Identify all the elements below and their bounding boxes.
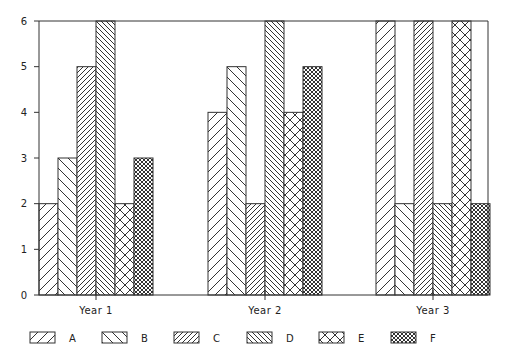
legend-item-c: C bbox=[174, 332, 220, 344]
legend-item-a: A bbox=[30, 332, 76, 344]
legend-swatch-f bbox=[391, 332, 416, 343]
bar-b-year-1 bbox=[58, 158, 77, 295]
bar-f-year-1 bbox=[134, 158, 153, 295]
y-tick-label: 6 bbox=[21, 16, 27, 27]
x-category-label: Year 1 bbox=[78, 305, 113, 316]
y-axis-ticks: 0123456 bbox=[21, 16, 39, 301]
x-category-label: Year 3 bbox=[415, 305, 450, 316]
legend-item-b: B bbox=[102, 332, 148, 344]
bar-d-year-1 bbox=[96, 21, 115, 295]
bar-c-year-1 bbox=[77, 67, 96, 295]
legend-label: D bbox=[286, 333, 294, 344]
x-category-label: Year 2 bbox=[247, 305, 282, 316]
legend-swatch-b bbox=[102, 332, 127, 343]
bar-a-year-1 bbox=[39, 204, 58, 295]
bar-b-year-2 bbox=[227, 67, 246, 295]
legend-swatch-d bbox=[247, 332, 272, 343]
y-tick-label: 2 bbox=[21, 198, 27, 209]
legend-swatch-e bbox=[319, 332, 344, 343]
bar-b-year-3 bbox=[395, 204, 414, 295]
legend-label: A bbox=[69, 333, 76, 344]
legend-swatch-c bbox=[174, 332, 199, 343]
y-tick-label: 1 bbox=[21, 244, 27, 255]
bar-e-year-1 bbox=[115, 204, 134, 295]
legend: ABCDEF bbox=[30, 332, 436, 344]
bar-chart: 0123456 Year 1Year 2Year 3 ABCDEF bbox=[0, 0, 509, 363]
bars-group bbox=[39, 21, 490, 295]
bar-c-year-2 bbox=[246, 204, 265, 295]
bar-f-year-2 bbox=[303, 67, 322, 295]
bar-a-year-3 bbox=[376, 21, 395, 295]
bar-e-year-2 bbox=[284, 112, 303, 295]
bar-d-year-3 bbox=[433, 204, 452, 295]
legend-item-e: E bbox=[319, 332, 364, 344]
bar-d-year-2 bbox=[265, 21, 284, 295]
y-tick-label: 0 bbox=[21, 290, 27, 301]
legend-label: C bbox=[213, 333, 220, 344]
bar-a-year-2 bbox=[208, 112, 227, 295]
legend-label: B bbox=[141, 333, 148, 344]
bar-e-year-3 bbox=[452, 21, 471, 295]
y-tick-label: 3 bbox=[21, 153, 27, 164]
legend-item-d: D bbox=[247, 332, 294, 344]
legend-label: E bbox=[358, 333, 364, 344]
legend-swatch-a bbox=[30, 332, 55, 343]
bar-f-year-3 bbox=[471, 204, 490, 295]
y-tick-label: 4 bbox=[21, 107, 27, 118]
legend-item-f: F bbox=[391, 332, 436, 344]
bar-c-year-3 bbox=[414, 21, 433, 295]
y-tick-label: 5 bbox=[21, 61, 27, 72]
legend-label: F bbox=[430, 333, 436, 344]
